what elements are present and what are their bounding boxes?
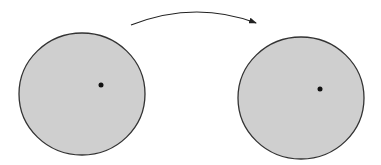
left-disc bbox=[19, 33, 145, 155]
right-disc bbox=[238, 37, 364, 159]
transition-arrow-icon bbox=[131, 12, 256, 25]
right-disc-shape bbox=[238, 37, 364, 159]
diagram-canvas bbox=[0, 0, 381, 165]
right-disc-point bbox=[318, 87, 323, 92]
left-disc-shape bbox=[19, 33, 145, 155]
diagram-svg bbox=[0, 0, 381, 165]
left-disc-point bbox=[99, 83, 104, 88]
